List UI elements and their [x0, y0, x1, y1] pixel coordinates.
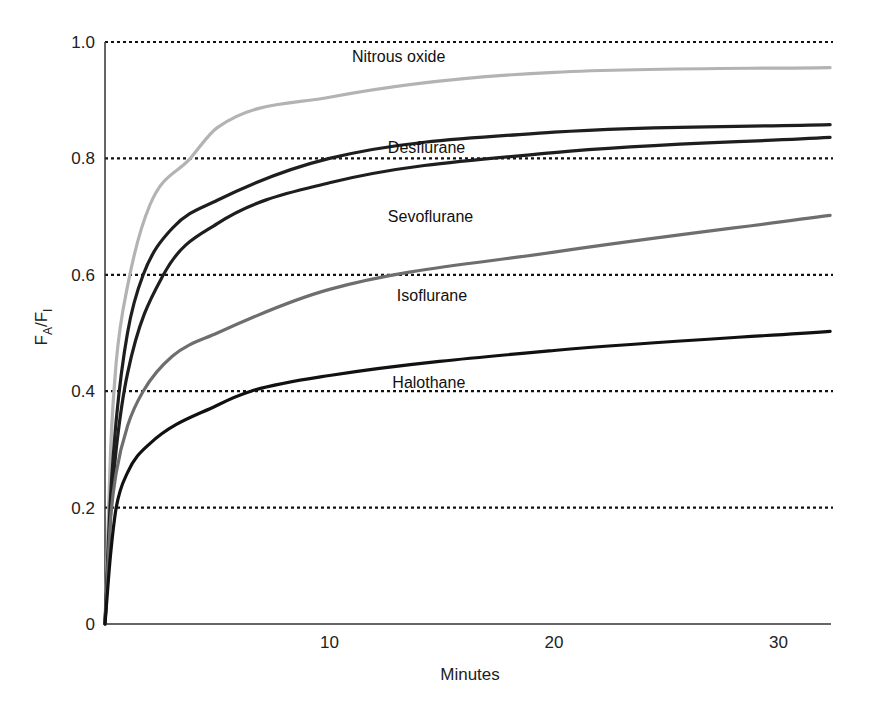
label-isoflurane: Isoflurane [397, 287, 467, 304]
curve-desflurane [105, 125, 830, 624]
y-title-f1: F [32, 335, 51, 345]
svg-text:FA/FI: FA/FI [32, 309, 55, 346]
y-axis-title: FA/FI [32, 309, 55, 346]
y-tick-label: 0 [86, 615, 95, 634]
label-nitrous-oxide: Nitrous oxide [352, 48, 445, 65]
curve-labels: Nitrous oxideDesfluraneSevofluraneIsoflu… [352, 48, 473, 391]
y-title-sub-a: A [41, 327, 55, 335]
curves [105, 68, 830, 624]
y-tick-label: 0.8 [71, 149, 95, 168]
label-desflurane: Desflurane [388, 139, 465, 156]
x-tick-label: 10 [320, 633, 339, 652]
y-tick-label: 0.2 [71, 499, 95, 518]
curve-isoflurane [105, 215, 830, 624]
x-tick-label: 30 [769, 633, 788, 652]
label-sevoflurane: Sevoflurane [388, 208, 473, 225]
x-axis-title: Minutes [440, 665, 500, 684]
y-tick-label: 0.4 [71, 382, 95, 401]
curve-nitrous-oxide [105, 68, 830, 624]
y-title-sub-i: I [41, 309, 55, 312]
x-tick-labels: 102030 [320, 633, 788, 652]
y-tick-labels: 00.20.40.60.81.0 [71, 33, 95, 634]
label-halothane: Halothane [392, 374, 465, 391]
y-tick-label: 1.0 [71, 33, 95, 52]
y-tick-label: 0.6 [71, 266, 95, 285]
grid-lines [105, 42, 833, 508]
uptake-chart: 00.20.40.60.81.0 102030 Nitrous oxideDes… [0, 0, 874, 718]
curve-halothane [105, 331, 830, 624]
y-title-f2: F [32, 312, 51, 322]
x-tick-label: 20 [545, 633, 564, 652]
